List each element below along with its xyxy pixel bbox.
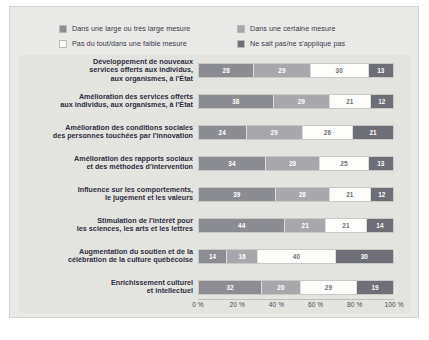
bar-segment[interactable]: 21 [325,219,366,232]
legend-item-pas-du-tout[interactable]: Pas du tout/dans une faible mesure [59,36,187,51]
bar-segment-value: 28 [299,191,306,198]
bar-segment[interactable]: 25 [319,157,368,170]
bar-segment-value: 21 [342,222,349,229]
x-axis-tick-label: 40 % [269,301,284,308]
bar-segment-value: 14 [209,253,216,260]
legend-item-large-mesure[interactable]: Dans une large ou très large mesure [59,21,190,36]
bar-segment-value: 25 [340,160,347,167]
bar-segment[interactable]: 38 [199,95,273,108]
category-label: Développement de nouveauxservices offert… [28,58,193,84]
legend-row: Dans une large ou très large mesure Dans… [55,21,385,36]
bar-segment[interactable]: 28 [275,188,329,201]
bar-segment-value: 32 [226,284,233,291]
x-axis-tick-label: 100 % [384,301,403,308]
bar-segment-value: 13 [377,160,384,167]
bar-segment[interactable]: 21 [352,126,393,139]
bar-segment[interactable]: 13 [368,157,393,170]
category-label: Enrichissement culturelet intellectuel [28,279,193,296]
bar-segment[interactable]: 40 [257,250,335,263]
legend-item-label: Dans une large ou très large mesure [72,24,190,33]
bar-row: 14164030 [198,249,394,264]
legend-swatch-icon [237,40,245,48]
bar-segment[interactable]: 34 [199,157,265,170]
legend-item-label: Ne sait pas/ne s'applique pas [250,39,345,48]
bar-segment[interactable]: 39 [199,188,275,201]
legend-item-certaine-mesure[interactable]: Dans une certaine mesure [237,21,336,36]
category-label: Influence sur les comportements,le jugem… [28,186,193,203]
category-label: Augmentation du soutien et de lacélébrat… [28,248,193,265]
bar-segment[interactable]: 14 [366,219,393,232]
bar-segment-value: 21 [346,191,353,198]
chart-panel: Dans une large ou très large mesure Dans… [9,6,419,318]
category-label-line: aux individus, aux organismes, à l'État [28,101,193,110]
category-label: Amélioration des rapports sociauxet des … [28,155,193,172]
bar-segment-value: 30 [336,67,343,74]
x-axis-tick-label: 60 % [308,301,323,308]
legend-item-label: Pas du tout/dans une faible mesure [72,39,187,48]
x-axis-line [198,299,394,300]
category-label-line: des personnes touchées par l'innovation [28,132,193,141]
bar-segment-value: 21 [302,222,309,229]
bar-segment[interactable]: 19 [356,281,393,294]
bar-segment-value: 21 [346,98,353,105]
bar-segment-value: 16 [239,253,246,260]
bar-segment[interactable]: 28 [199,64,253,77]
bar-segment[interactable]: 24 [199,126,246,139]
bar-segment[interactable]: 13 [368,64,393,77]
bar-segment[interactable]: 21 [284,219,325,232]
bar-segment[interactable]: 28 [265,157,319,170]
legend-swatch-icon [59,25,67,33]
bar-segment[interactable]: 30 [335,250,393,263]
legend-row: Pas du tout/dans une faible mesure Ne sa… [55,36,385,51]
bar-segment-value: 12 [378,191,385,198]
x-axis-ticks: 0 %20 %40 %60 %80 %100 % [198,301,394,315]
category-label-line: célébration de la culture québécoise [28,256,193,265]
bar-segment-value: 38 [232,98,239,105]
legend-item-ne-sait-pas[interactable]: Ne sait pas/ne s'applique pas [237,36,345,51]
x-axis-tick-label: 20 % [229,301,244,308]
bar-row: 39282112 [198,187,394,202]
bar-segment[interactable]: 12 [370,188,393,201]
category-label-line: les sciences, les arts et les lettres [28,225,193,234]
category-label: Amélioration des services offertsaux ind… [28,93,193,110]
legend-item-label: Dans une certaine mesure [250,24,336,33]
chart-figure: Dans une large ou très large mesure Dans… [0,0,429,340]
bar-segment-value: 24 [219,129,226,136]
bar-segment[interactable]: 30 [310,64,368,77]
bar-segment-value: 29 [278,67,285,74]
bar-segment[interactable]: 20 [261,281,300,294]
bar-segment[interactable]: 32 [199,281,261,294]
bar-row: 44212114 [198,218,394,233]
bar-segment-value: 29 [298,98,305,105]
bar-segment-value: 14 [376,222,383,229]
bar-segment[interactable]: 26 [302,126,352,139]
bar-row: 28293013 [198,63,394,78]
bar-segment[interactable]: 14 [199,250,226,263]
bar-segment-value: 21 [369,129,376,136]
bar-row: 38292112 [198,94,394,109]
bar-segment-value: 19 [371,284,378,291]
x-axis-tick-label: 0 % [192,301,204,308]
bar-segment[interactable]: 29 [246,126,302,139]
category-label: Amélioration des conditions socialesdes … [28,124,193,141]
bar-row: 24292621 [198,125,394,140]
bar-segment[interactable]: 29 [300,281,356,294]
bar-segment-value: 20 [277,284,284,291]
bar-segment[interactable]: 44 [199,219,284,232]
category-label: Stimulation de l'intérêt pourles science… [28,217,193,234]
bar-segment[interactable]: 21 [329,188,370,201]
category-label-line: et intellectuel [28,287,193,296]
x-axis-tick-label: 80 % [347,301,362,308]
bar-segment-value: 30 [361,253,368,260]
bar-segment-value: 39 [233,191,240,198]
bar-segment-value: 13 [377,67,384,74]
bar-segment[interactable]: 12 [370,95,393,108]
legend-swatch-icon [59,40,67,48]
bar-segment[interactable]: 16 [226,250,257,263]
bar-segment[interactable]: 29 [253,64,309,77]
bar-segment-value: 29 [325,284,332,291]
bar-segment-value: 28 [223,67,230,74]
bar-segment[interactable]: 21 [329,95,370,108]
bar-segment-value: 12 [378,98,385,105]
bar-segment[interactable]: 29 [273,95,329,108]
